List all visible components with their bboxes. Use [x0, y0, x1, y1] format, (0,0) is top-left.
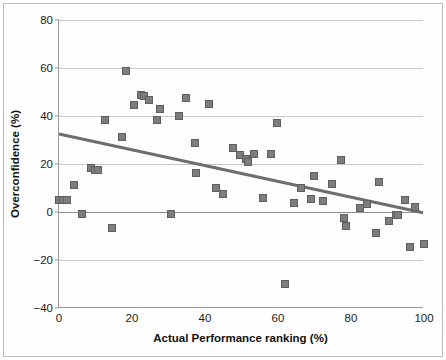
- y-tick-mark: [55, 163, 59, 164]
- data-point: [401, 196, 409, 204]
- data-point: [290, 199, 298, 207]
- x-tick-label: 60: [272, 312, 285, 324]
- y-tick-mark: [55, 115, 59, 116]
- data-point: [372, 229, 380, 237]
- data-point: [307, 195, 315, 203]
- data-point: [411, 203, 419, 211]
- data-point: [406, 243, 414, 251]
- data-point: [118, 133, 126, 141]
- x-axis-title: Actual Performance ranking (%): [58, 332, 423, 344]
- data-point: [273, 119, 281, 127]
- y-tick-mark: [55, 211, 59, 212]
- data-point: [145, 96, 153, 104]
- y-tick-label: 0: [47, 206, 53, 218]
- data-point: [363, 200, 371, 208]
- plot-area: −40−20020406080 020406080100: [58, 20, 423, 308]
- x-tick-label: 40: [199, 312, 212, 324]
- data-point: [130, 101, 138, 109]
- y-tick-mark: [55, 307, 59, 308]
- data-point: [108, 224, 116, 232]
- y-axis-title-text: Overconfidence (%): [9, 110, 21, 218]
- data-point: [63, 196, 71, 204]
- data-point: [94, 166, 102, 174]
- data-point: [244, 158, 252, 166]
- gridline: [59, 116, 423, 117]
- y-tick-label: −40: [33, 302, 53, 314]
- y-tick-mark: [55, 19, 59, 20]
- data-point: [78, 210, 86, 218]
- data-point: [394, 211, 402, 219]
- gridline: [59, 164, 423, 165]
- chart-figure: Overconfidence (%) −40−20020406080 02040…: [0, 0, 446, 360]
- data-point: [250, 150, 258, 158]
- data-point: [267, 150, 275, 158]
- data-point: [319, 197, 327, 205]
- y-tick-mark: [55, 259, 59, 260]
- data-point: [153, 116, 161, 124]
- data-point: [167, 210, 175, 218]
- x-tick-label: 20: [126, 312, 139, 324]
- gridline: [59, 20, 423, 21]
- data-point: [420, 240, 428, 248]
- gridline: [59, 68, 423, 69]
- y-tick-label: −20: [33, 254, 53, 266]
- data-point: [101, 116, 109, 124]
- data-point: [328, 180, 336, 188]
- data-point: [375, 178, 383, 186]
- x-tick-label: 80: [345, 312, 358, 324]
- data-point: [297, 184, 305, 192]
- data-point: [192, 169, 200, 177]
- data-point: [182, 94, 190, 102]
- data-point: [122, 67, 130, 75]
- data-point: [337, 156, 345, 164]
- y-tick-mark: [55, 67, 59, 68]
- zero-line: [59, 212, 423, 213]
- gridline: [59, 260, 423, 261]
- data-point: [70, 181, 78, 189]
- data-point: [342, 222, 350, 230]
- x-tick-label: 100: [414, 312, 433, 324]
- data-point: [259, 194, 267, 202]
- y-tick-label: 80: [40, 14, 53, 26]
- y-axis-title: Overconfidence (%): [6, 20, 24, 308]
- data-point: [175, 112, 183, 120]
- y-tick-label: 20: [40, 158, 53, 170]
- data-point: [205, 100, 213, 108]
- data-point: [156, 105, 164, 113]
- y-tick-label: 60: [40, 62, 53, 74]
- y-tick-label: 40: [40, 110, 53, 122]
- data-point: [191, 139, 199, 147]
- data-point: [281, 280, 289, 288]
- x-tick-label: 0: [56, 312, 62, 324]
- data-point: [219, 190, 227, 198]
- data-point: [310, 172, 318, 180]
